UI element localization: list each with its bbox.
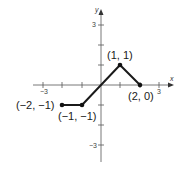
point-neg2-neg1 (60, 103, 65, 108)
y-axis-label: y (94, 6, 99, 14)
y-tick-label-3: 3 (92, 21, 96, 28)
y-tick-label-neg3: −3 (89, 142, 97, 149)
x-axis-label: x (169, 75, 174, 82)
label-point-2-0: (2, 0) (128, 90, 154, 102)
point-neg1-neg1 (80, 103, 85, 108)
label-point-1-1: (1, 1) (107, 49, 133, 61)
x-tick-label-neg3: −3 (40, 88, 48, 95)
y-axis-arrow-icon (99, 9, 104, 15)
label-point-neg2-neg1: (−2, −1) (16, 99, 55, 111)
point-1-1 (118, 63, 123, 68)
x-axis-arrow-icon (168, 83, 174, 88)
label-point-neg1-neg1: (−1, −1) (58, 110, 97, 122)
graph: −3 3 3 −3 y x (−2, −1) (−1, −1) (1, 1) (… (0, 0, 185, 174)
point-2-0 (138, 83, 143, 88)
x-tick-label-3: 3 (157, 88, 161, 95)
